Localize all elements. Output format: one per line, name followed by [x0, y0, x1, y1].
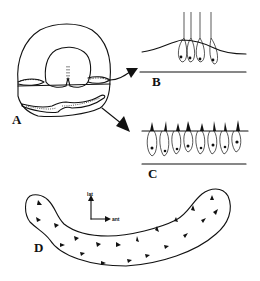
figure-canvas: A B	[0, 0, 260, 281]
hair-cells-c	[147, 120, 241, 156]
panel-label-c: C	[148, 166, 157, 181]
arrow-to-b	[110, 68, 138, 80]
hair-cells-b	[178, 12, 217, 64]
axis-label-lat: lat	[87, 191, 93, 197]
panel-label-a: A	[12, 112, 22, 127]
panel-d: lat ant D	[26, 189, 231, 266]
axis-label-ant: ant	[112, 216, 120, 222]
panel-label-d: D	[34, 240, 43, 255]
panel-a: A	[12, 24, 110, 127]
axis-indicator: lat ant	[87, 191, 120, 222]
polarity-arrowheads	[36, 195, 218, 265]
panel-label-b: B	[152, 74, 161, 89]
panel-b: B	[140, 12, 246, 89]
arrow-to-c	[102, 108, 130, 132]
panel-c: C	[142, 120, 248, 181]
